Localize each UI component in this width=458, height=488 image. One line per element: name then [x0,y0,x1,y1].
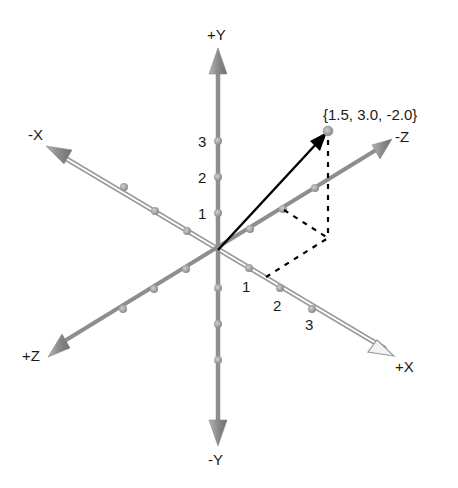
y-tick-dot [214,173,222,181]
x-tick-dot [183,227,191,235]
x-pos-label: +X [395,358,414,375]
z-tick-dot [246,225,254,233]
x-tick-dot [276,284,284,292]
z-neg-arrowhead-icon [372,139,392,159]
projection-lines [266,140,328,277]
y-tick-dot [214,137,222,145]
y-neg-arrowhead-icon [209,420,227,446]
y-pos-label: +Y [207,26,226,43]
x-tick-dot [151,207,159,215]
x-tick-label-3: 3 [305,316,313,333]
z-tick-dot [182,265,190,273]
y-tick-dot [214,284,222,292]
z-neg-label: -Z [395,128,409,145]
x-tick-dot [120,183,128,191]
point-marker [323,126,333,136]
y-tick-label-1: 1 [198,205,206,222]
x-neg-label: -X [28,126,43,143]
y-tick-dot [214,209,222,217]
y-neg-label: -Y [208,451,223,468]
y-tick-label-3: 3 [198,133,206,150]
point-label: {1.5, 3.0, -2.0} [323,106,417,123]
y-tick-dot [214,356,222,364]
y-tick-dot [214,320,222,328]
x-tick-dot [245,264,253,272]
x-tick-label-2: 2 [273,297,281,314]
z-tick-dot [150,285,158,293]
coordinate-diagram: +Y -Y -X +X +Z -Z 3 2 1 1 2 3 {1.5, 3.0,… [0,0,458,488]
x-tick-dot [308,305,316,313]
y-tick-label-2: 2 [198,169,206,186]
z-pos-label: +Z [22,347,40,364]
z-tick-dot [311,184,319,192]
z-tick-dot [119,305,127,313]
y-pos-arrowhead-icon [209,48,227,74]
x-tick-label-1: 1 [242,278,250,295]
